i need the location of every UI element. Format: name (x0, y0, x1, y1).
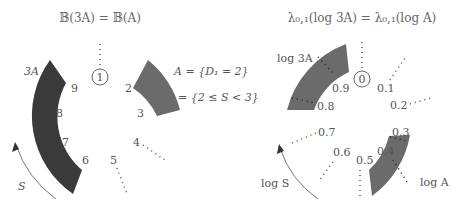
dotted-tick-0.6 (318, 162, 333, 182)
label-A-def-1: A = {D₁ = 2} (173, 65, 249, 78)
tick-6: 6 (82, 154, 89, 167)
right-diagram: λ₀,₁(log 3A) = λ₀,₁(log A) 0 log 3A log … (261, 11, 450, 199)
dotted-tick-5 (117, 168, 127, 194)
tick-4: 4 (133, 136, 140, 149)
dotted-tick-0.2 (410, 97, 434, 104)
arrow-logS-path (280, 148, 318, 199)
tick-2: 2 (125, 82, 132, 95)
label-3A: 3A (24, 65, 39, 78)
dark-arc-3A (32, 60, 82, 194)
dotted-tick-4 (143, 145, 165, 160)
dotted-tick-0.7 (292, 133, 316, 143)
left-diagram: 𝔹(3A) = 𝔹(A) 1 3A A = {D₁ = 2} = {2 ≤ S … (12, 11, 259, 199)
tick-3: 3 (137, 107, 144, 120)
label-A-def-2: = {2 ≤ S < 3} (178, 91, 259, 104)
tick-7: 7 (62, 136, 69, 149)
tick-8: 8 (56, 107, 63, 120)
diagram-canvas: 𝔹(3A) = 𝔹(A) 1 3A A = {D₁ = 2} = {2 ≤ S … (0, 0, 461, 209)
tick-0.6: 0.6 (333, 146, 351, 159)
label-log-S: log S (261, 177, 289, 190)
tick-9: 9 (71, 82, 78, 95)
tick-0.5: 0.5 (356, 154, 374, 167)
dotted-tick-0.1 (390, 58, 405, 80)
tick-0.9: 0.9 (332, 82, 350, 95)
tick-0.3: 0.3 (392, 126, 410, 139)
label-log-3A: log 3A (277, 52, 314, 65)
arrow-logS-head-icon (277, 144, 284, 154)
left-center-label: 1 (97, 71, 104, 84)
tick-5: 5 (110, 154, 117, 167)
tick-0.7: 0.7 (318, 126, 336, 139)
tick-0.8: 0.8 (317, 100, 335, 113)
tick-0.4: 0.4 (377, 145, 395, 158)
tick-0.2: 0.2 (390, 99, 408, 112)
left-title: 𝔹(3A) = 𝔹(A) (59, 11, 141, 25)
right-title: λ₀,₁(log 3A) = λ₀,₁(log A) (288, 11, 437, 25)
label-log-A: log A (420, 176, 450, 189)
right-center-label: 0 (359, 73, 366, 86)
tick-0.1: 0.1 (377, 82, 395, 95)
label-S: S (18, 180, 26, 193)
